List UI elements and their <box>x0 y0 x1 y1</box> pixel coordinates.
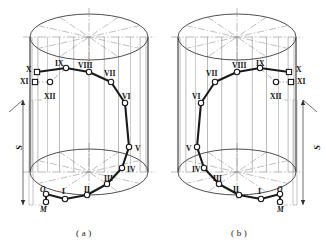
point-label-a-VI: VI <box>122 93 130 101</box>
point-label-a-I: I <box>62 188 65 196</box>
dimension-label-lead-right: S <box>312 145 322 150</box>
point-label-a-XII: XII <box>44 93 55 101</box>
point-label-b-II: II <box>233 186 239 194</box>
point-label-a-II: II <box>84 186 90 194</box>
point-label-b-I: I <box>258 188 261 196</box>
lead-arrow-bottom-a <box>21 200 25 205</box>
lead-leader-a <box>9 100 23 112</box>
point-marker-b-XI[interactable] <box>288 79 293 84</box>
point-label-a-O: O <box>40 186 45 194</box>
point-marker-a-IX[interactable] <box>63 65 68 70</box>
point-marker-b-VIII[interactable] <box>234 69 239 74</box>
point-marker-b-M[interactable] <box>277 199 282 204</box>
lead-arrow-bottom-b <box>301 200 305 205</box>
point-label-b-III: III <box>213 175 222 183</box>
point-marker-a-V[interactable] <box>126 144 131 149</box>
point-marker-a-VIII[interactable] <box>86 69 91 74</box>
point-label-b-VII: VII <box>206 70 217 78</box>
point-marker-b-V[interactable] <box>194 144 199 149</box>
point-label-a-VII: VII <box>104 70 115 78</box>
point-label-a-IX: IX <box>55 60 63 68</box>
lead-leader-b <box>303 100 317 112</box>
point-label-a-XI: XI <box>20 78 28 86</box>
point-label-b-O: O <box>277 186 282 194</box>
point-label-b-VI: VI <box>192 93 200 101</box>
point-marker-a-VI[interactable] <box>122 100 127 105</box>
point-label-b-IX: IX <box>256 60 264 68</box>
point-marker-a-X[interactable] <box>34 69 39 74</box>
point-marker-a-I[interactable] <box>62 196 67 201</box>
point-label-a-IV: IV <box>127 166 135 174</box>
helix-curve-b <box>197 68 289 202</box>
point-label-b-M: M <box>277 206 284 214</box>
point-marker-b-VI[interactable] <box>198 100 203 105</box>
helix-construction-figure: OMIIIIIIIVVVIVIIVIIIIXXXIXIIOMIIIIIIIVVV… <box>0 0 326 250</box>
panel-caption-a: ( a ) <box>76 228 92 238</box>
point-marker-a-IV[interactable] <box>119 165 124 170</box>
point-label-b-V: V <box>186 145 191 153</box>
point-marker-b-I[interactable] <box>258 196 263 201</box>
point-marker-a-XI[interactable] <box>32 79 37 84</box>
helix-curve-a <box>37 68 129 202</box>
point-marker-b-IV[interactable] <box>201 165 206 170</box>
point-marker-a-VII[interactable] <box>108 79 113 84</box>
point-label-a-VIII: VIII <box>78 62 92 70</box>
point-label-a-III: III <box>104 175 113 183</box>
lead-arrow-top-a <box>21 100 25 105</box>
point-marker-a-M[interactable] <box>43 199 48 204</box>
point-label-b-XI: XI <box>297 78 305 86</box>
lead-arrow-top-b <box>301 100 305 105</box>
point-label-b-IV: IV <box>192 166 200 174</box>
point-marker-b-XII[interactable] <box>273 79 278 84</box>
point-label-b-X: X <box>296 66 301 74</box>
dimension-label-lead-left: S <box>14 145 24 150</box>
point-label-b-VIII: VIII <box>232 62 246 70</box>
point-marker-b-VII[interactable] <box>212 79 217 84</box>
point-label-a-V: V <box>135 145 140 153</box>
point-marker-a-XII[interactable] <box>47 79 52 84</box>
point-label-a-M: M <box>40 206 47 214</box>
point-label-b-XII: XII <box>270 93 281 101</box>
point-marker-b-X[interactable] <box>286 69 291 74</box>
panel-caption-b: ( b ) <box>231 228 247 238</box>
point-label-a-X: X <box>26 66 31 74</box>
